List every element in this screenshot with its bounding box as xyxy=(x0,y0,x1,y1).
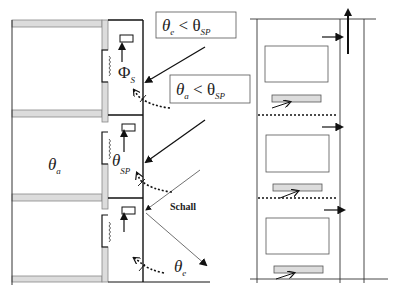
label-theta-e: θe xyxy=(174,257,186,278)
label-theta-a: θa xyxy=(48,155,61,176)
right-elevation-diagram xyxy=(250,10,388,283)
blind-icons xyxy=(109,56,111,242)
label-theta-sp: θSP xyxy=(112,151,131,176)
floor-slabs xyxy=(12,20,102,282)
label-schall: Schall xyxy=(170,201,196,212)
solar-arrows xyxy=(146,47,205,162)
inner-facade-wall xyxy=(102,20,108,282)
sound-arrows xyxy=(146,170,206,265)
inner-windows xyxy=(102,50,108,247)
double-facade-cavity xyxy=(108,20,210,282)
label-phi-s: ΦS xyxy=(118,63,135,85)
right-windows xyxy=(265,46,329,254)
left-section-diagram: θe < θSP θa < θSP ΦS θSP θa θe Schall xyxy=(12,12,250,285)
facade-ventilation-diagram: θe < θSP θa < θSP ΦS θSP θa θe Schall xyxy=(0,0,395,290)
dotted-flow-arrows xyxy=(134,90,172,273)
